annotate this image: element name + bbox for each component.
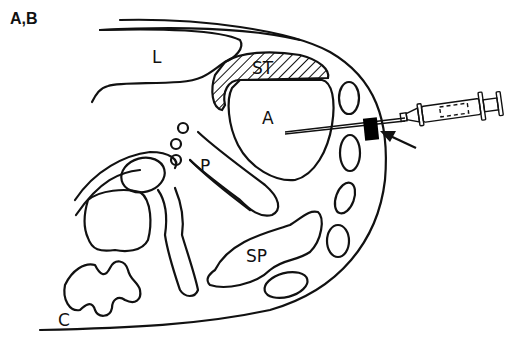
loop-right-3	[331, 180, 359, 216]
label-stomach: ST	[252, 58, 274, 78]
loop-right-1	[339, 82, 359, 114]
vessel-1	[178, 123, 188, 133]
vessel-2	[171, 139, 181, 149]
label-colon: C	[58, 310, 70, 330]
needle-marker	[363, 117, 379, 140]
kidney	[85, 190, 151, 251]
label-pancreas: P	[200, 156, 210, 176]
body-wall-outer	[40, 20, 386, 330]
needle-shaft	[285, 118, 405, 132]
syringe-icon	[399, 89, 504, 131]
colon	[64, 261, 140, 315]
left-outer-curve	[75, 152, 176, 200]
label-liver: L	[152, 47, 162, 67]
ureter-tube	[158, 188, 198, 296]
loop-right-4	[327, 225, 349, 257]
label-spleen: SP	[246, 246, 267, 266]
loop-right-2	[340, 135, 360, 171]
cross-section-diagram: L ST A P SP C	[0, 0, 509, 362]
label-abscess: A	[262, 108, 274, 128]
